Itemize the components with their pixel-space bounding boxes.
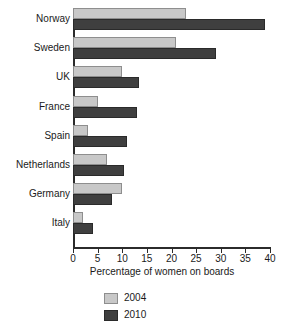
x-tick-label-30: 30 <box>215 254 226 264</box>
bar-spain-2010 <box>73 136 127 147</box>
bar-spain-2004 <box>73 125 88 136</box>
plot-area <box>73 8 270 245</box>
category-label-italy: Italy <box>2 218 70 228</box>
x-tick-label-35: 35 <box>240 254 251 264</box>
bar-netherlands-2010 <box>73 165 124 176</box>
category-axis-labels: NorwaySwedenUKFranceSpainNetherlandsGerm… <box>0 8 70 245</box>
x-tick-label-10: 10 <box>117 254 128 264</box>
category-label-norway: Norway <box>2 14 70 24</box>
bar-uk-2004 <box>73 66 122 77</box>
category-label-sweden: Sweden <box>2 43 70 53</box>
x-tick-label-5: 5 <box>95 254 101 264</box>
legend-label-2004: 2004 <box>124 293 146 303</box>
bar-group <box>73 8 270 30</box>
x-axis-title: Percentage of women on boards <box>0 266 288 278</box>
category-label-spain: Spain <box>2 131 70 141</box>
x-tick-label-25: 25 <box>191 254 202 264</box>
bar-norway-2010 <box>73 19 265 30</box>
bar-norway-2004 <box>73 8 186 19</box>
legend-swatch-2004 <box>104 293 118 304</box>
bar-group <box>73 37 270 59</box>
bar-uk-2010 <box>73 77 139 88</box>
x-tick-label-0: 0 <box>70 254 76 264</box>
bar-group <box>73 212 270 234</box>
bar-chart: NorwaySwedenUKFranceSpainNetherlandsGerm… <box>0 0 288 332</box>
x-tick-label-15: 15 <box>141 254 152 264</box>
bar-sweden-2010 <box>73 48 216 59</box>
bar-netherlands-2004 <box>73 154 107 165</box>
bar-italy-2004 <box>73 212 83 223</box>
bar-group <box>73 183 270 205</box>
bar-italy-2010 <box>73 223 93 234</box>
bar-germany-2004 <box>73 183 122 194</box>
bar-france-2004 <box>73 96 98 107</box>
x-axis-ticks: 0510152025303540 <box>73 249 271 267</box>
bar-group <box>73 96 270 118</box>
legend-swatch-2010 <box>104 310 118 321</box>
category-label-netherlands: Netherlands <box>2 160 70 170</box>
chart-legend: 20042010 <box>104 292 146 326</box>
bar-group <box>73 154 270 176</box>
bar-sweden-2004 <box>73 37 176 48</box>
legend-label-2010: 2010 <box>124 310 146 320</box>
category-label-uk: UK <box>2 72 70 82</box>
x-tick-label-40: 40 <box>264 254 275 264</box>
x-tick-label-20: 20 <box>166 254 177 264</box>
bar-france-2010 <box>73 107 137 118</box>
category-label-france: France <box>2 102 70 112</box>
legend-item-2010[interactable]: 2010 <box>104 309 146 321</box>
legend-item-2004[interactable]: 2004 <box>104 292 146 304</box>
category-label-germany: Germany <box>2 189 70 199</box>
bar-group <box>73 125 270 147</box>
bar-group <box>73 66 270 88</box>
bar-germany-2010 <box>73 194 112 205</box>
